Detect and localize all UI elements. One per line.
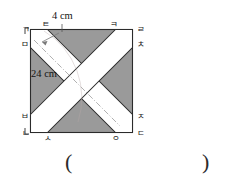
vertex-label-left-upper: ㅁ: [21, 40, 29, 49]
vertex-label-top-left-corner: ㄱ: [22, 25, 30, 34]
vertex-label-bottom-left-mid: ㅅ: [44, 134, 52, 143]
answer-close-paren: ): [202, 151, 209, 173]
vertex-label-top-left-mid: ㅌ: [42, 20, 50, 29]
vertex-label-bottom-right-mid: ㅇ: [112, 134, 120, 143]
answer-line: ( ): [0, 148, 237, 183]
vertex-label-top-right-corner: ㄹ: [137, 25, 145, 34]
dimension-label-band-width: 4 cm: [52, 11, 73, 22]
vertex-label-left-lower: ㅂ: [21, 112, 29, 121]
vertex-label-bottom-right-corner: ㄷ: [137, 129, 145, 138]
vertex-label-right-lower: ㅈ: [137, 112, 145, 121]
answer-open-paren: (: [65, 151, 72, 173]
vertex-label-top-right-mid: ㅋ: [110, 20, 118, 29]
vertex-label-right-upper: ㅊ: [137, 40, 145, 49]
vertex-label-bottom-left-corner: ㄴ: [22, 129, 30, 138]
dimension-label-diagonal: 24 cm: [31, 69, 57, 80]
